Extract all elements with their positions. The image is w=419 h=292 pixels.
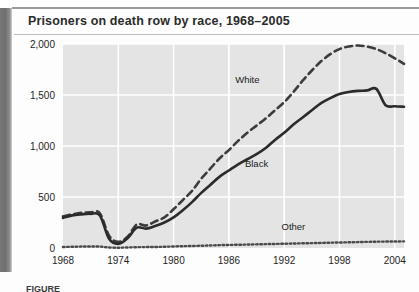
series-label-black: Black <box>245 158 268 169</box>
chart-container: 05001,0001,5002,000196819741980198619921… <box>0 36 419 276</box>
series-label-other: Other <box>282 221 306 232</box>
x-axis-tick-label: 1992 <box>273 255 296 266</box>
x-axis-tick-label: 1986 <box>218 255 241 266</box>
page-title: Prisoners on death row by race, 1968–200… <box>28 14 290 28</box>
x-axis-tick-label: 1980 <box>162 255 185 266</box>
figure-page: Prisoners on death row by race, 1968–200… <box>0 0 419 292</box>
series-label-white: White <box>235 74 259 85</box>
figure-caption: FIGURE <box>26 284 60 292</box>
title-divider <box>14 34 419 35</box>
y-axis-tick-label: 2,000 <box>30 39 55 50</box>
y-axis-tick-label: 1,000 <box>30 141 55 152</box>
top-divider <box>12 7 419 9</box>
line-chart: 05001,0001,5002,000196819741980198619921… <box>0 36 419 276</box>
y-axis-tick-label: 500 <box>38 192 55 203</box>
x-axis-tick-label: 1968 <box>52 255 75 266</box>
x-axis-tick-label: 1998 <box>328 255 351 266</box>
y-axis-tick-label: 0 <box>49 243 55 254</box>
x-axis-tick-label: 2004 <box>384 255 407 266</box>
y-axis-tick-label: 1,500 <box>30 90 55 101</box>
x-axis-tick-label: 1974 <box>107 255 130 266</box>
